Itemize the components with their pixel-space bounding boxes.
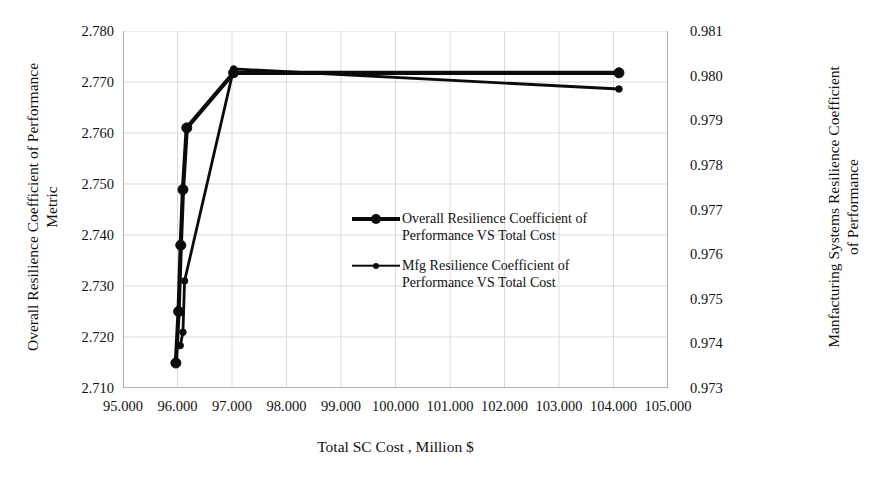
legend-entry-overall: Overall Resilience Coefficient of Perfor… [352, 210, 587, 244]
data-point-marker-1 [180, 329, 187, 336]
y-axis-right-title-line2: of Performance [843, 17, 862, 397]
data-point-marker-0 [614, 68, 624, 78]
chart-figure: Overall Resilience Coefficient of Perfor… [0, 0, 881, 478]
series-line-1 [180, 69, 619, 346]
chart-legend: Overall Resilience Coefficient of Perfor… [352, 210, 587, 304]
data-point-marker-1 [177, 342, 184, 349]
data-point-marker-0 [178, 185, 188, 195]
y-axis-right-tick-label: 0.973 [690, 379, 752, 397]
y-axis-left-tick-label: 2.740 [52, 226, 114, 244]
data-point-marker-0 [174, 307, 184, 317]
y-axis-right-title-line1: Manfacturing Systems Resilience Coeffici… [825, 66, 842, 348]
y-axis-right-tick-label: 0.976 [690, 245, 752, 263]
legend-label-mfg: Mfg Resilience Coefficient of Performanc… [402, 257, 569, 291]
y-axis-right-tick-label: 0.979 [690, 111, 752, 129]
y-axis-right-tick-label: 0.974 [690, 334, 752, 352]
y-axis-right-tick-label: 0.975 [690, 290, 752, 308]
x-axis-tick-labels: 95.00096.00097.00098.00099.000100.000101… [0, 396, 881, 416]
y-axis-right-tick-label: 0.977 [690, 201, 752, 219]
y-axis-right-tick-label: 0.981 [690, 22, 752, 40]
legend-marker-icon-mfg [352, 257, 400, 274]
data-point-marker-1 [230, 66, 237, 73]
y-axis-left-tick-label: 2.750 [52, 175, 114, 193]
y-axis-right-title: Manfacturing Systems Resilience Coeffici… [824, 17, 862, 397]
y-axis-right-tick-label: 0.980 [690, 67, 752, 85]
y-axis-left-tick-label: 2.780 [52, 22, 114, 40]
y-axis-left-tick-label: 2.760 [52, 124, 114, 142]
y-axis-left-tick-label: 2.720 [52, 328, 114, 346]
x-axis-title: Total SC Cost , Million $ [123, 438, 668, 456]
y-axis-left-tick-label: 2.730 [52, 277, 114, 295]
y-axis-right-tick-label: 0.978 [690, 156, 752, 174]
legend-entry-mfg: Mfg Resilience Coefficient of Performanc… [352, 257, 587, 291]
x-axis-tick-label: 105.000 [623, 396, 713, 416]
data-point-marker-0 [176, 240, 186, 250]
data-point-marker-1 [616, 86, 623, 93]
y-axis-left-tick-label: 2.710 [52, 379, 114, 397]
legend-label-overall: Overall Resilience Coefficient of Perfor… [402, 210, 587, 244]
data-point-marker-0 [171, 358, 181, 368]
data-point-marker-0 [182, 123, 192, 133]
data-point-marker-1 [181, 278, 188, 285]
y-axis-left-title-line1: Overall Resilience Coefficient of Perfor… [24, 63, 41, 351]
y-axis-left-tick-label: 2.770 [52, 73, 114, 91]
legend-marker-icon-overall [352, 210, 400, 227]
